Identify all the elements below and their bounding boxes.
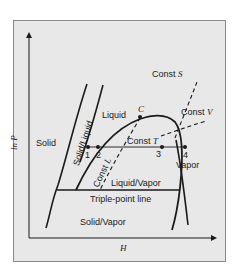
ph-diagram — [0, 0, 239, 272]
const-v-label: Const V — [181, 108, 213, 117]
const-s-prefix: Const — [152, 69, 176, 79]
critical-point-marker — [138, 115, 142, 119]
point-4-label: 4 — [183, 151, 188, 160]
saturation-dome — [76, 116, 182, 230]
x-axis-label: H — [120, 244, 127, 253]
region-liquid-vapor: Liquid/Vapor — [111, 179, 161, 188]
region-solid-vapor: Solid/Vapor — [80, 218, 126, 227]
point-2-marker — [96, 145, 100, 149]
const-s-var: S — [178, 69, 183, 79]
point-3-label: 3 — [156, 150, 161, 159]
point-2-label: 2 — [96, 151, 101, 160]
const-v-var: V — [207, 107, 213, 117]
point-4-marker — [183, 145, 187, 149]
point-1-label: 1 — [85, 151, 90, 160]
const-t-prefix: Const — [127, 136, 151, 146]
y-axis-label: ln P — [10, 135, 19, 150]
region-solid: Solid — [36, 139, 56, 148]
region-liquid: Liquid — [102, 111, 126, 120]
const-v-line — [161, 121, 206, 136]
critical-point-label: C — [138, 105, 144, 114]
region-vapor: Vapor — [176, 161, 199, 170]
const-v-prefix: Const — [181, 107, 205, 117]
const-s-label: Const S — [152, 70, 183, 79]
triple-point-line-label: Triple-point line — [90, 195, 151, 204]
const-t-label: Const T — [127, 137, 158, 146]
const-t-var: T — [153, 136, 158, 146]
